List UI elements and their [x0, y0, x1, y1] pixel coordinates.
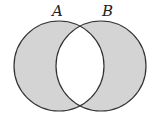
set-a-label: A — [50, 2, 63, 20]
venn-svg: A B — [0, 0, 158, 123]
set-b-label: B — [101, 2, 113, 20]
venn-diagram: A B — [0, 0, 158, 123]
